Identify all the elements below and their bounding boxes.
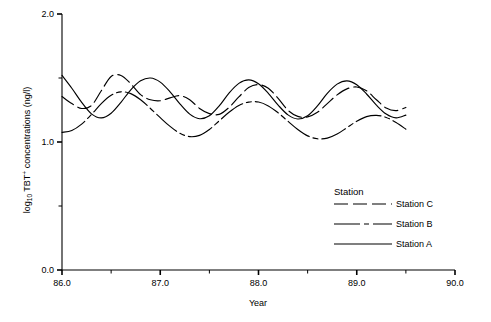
y-axis-title-rest: concentrations (ng/l) [22,87,32,171]
y-axis-ticks [57,14,62,270]
y-tick-label: 2.0 [41,9,54,19]
y-tick-label: 0.0 [41,265,54,275]
x-tick-label: 88.0 [250,278,268,288]
series-group [62,75,406,139]
x-tick-label: 87.0 [151,278,169,288]
y-axis-title: log10 TBT+ concentrations (ng/l) [21,87,33,213]
y-axis-tick-labels: 0.01.02.0 [41,9,54,275]
y-axis-title-mid: TBT [22,174,32,194]
x-axis-tick-labels: 86.087.088.089.090.0 [53,278,464,288]
x-axis-ticks [62,270,455,275]
legend-title: Station [334,186,364,197]
chart-figure: log10 TBT+ concentrations (ng/l) 0.01.02… [0,0,491,322]
y-axis-title-prefix: log [22,201,32,213]
line-chart: log10 TBT+ concentrations (ng/l) 0.01.02… [0,0,491,322]
x-tick-label: 90.0 [446,278,464,288]
legend: Station Station CStation BStation A [334,186,434,249]
series-line-station-b [62,92,406,139]
legend-label: Station C [396,199,434,209]
legend-entries: Station CStation BStation A [334,199,434,249]
x-tick-label: 89.0 [348,278,366,288]
legend-label: Station A [396,239,432,249]
x-tick-label: 86.0 [53,278,71,288]
x-axis-title: Year [249,298,267,308]
y-tick-label: 1.0 [41,137,54,147]
legend-label: Station B [396,219,433,229]
series-line-station-a [62,75,406,119]
